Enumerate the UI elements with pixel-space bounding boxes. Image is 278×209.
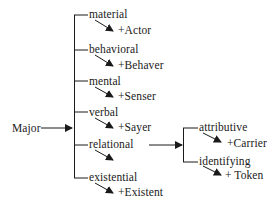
sub-branch-attributive: attributive: [199, 121, 247, 133]
participant-behaver: +Behaver: [118, 59, 164, 71]
root-label: Major: [12, 122, 41, 134]
branch-existential: existential: [89, 171, 137, 183]
participant-sayer: +Sayer: [118, 121, 151, 133]
branch-material: material: [89, 8, 127, 20]
branch-behavioral: behavioral: [89, 43, 139, 55]
branch-verbal: verbal: [89, 106, 118, 118]
sub-branch-identifying: identifying: [199, 155, 251, 167]
participant-actor: +Actor: [118, 24, 151, 36]
participant-carrier: +Carrier: [227, 137, 267, 149]
branch-relational: relational: [89, 138, 133, 150]
participant-existent: +Existent: [118, 186, 163, 198]
participant-token: + Token: [225, 169, 263, 181]
branch-mental: mental: [89, 75, 121, 87]
participant-senser: +Senser: [118, 90, 156, 102]
